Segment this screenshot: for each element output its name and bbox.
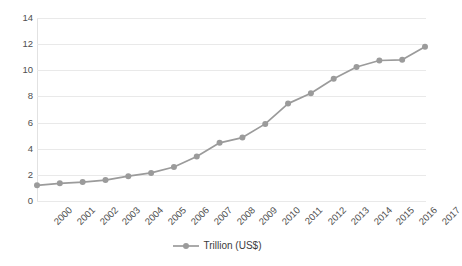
y-tick-label: 4 (3, 144, 33, 154)
x-tick-label: 2014 (372, 205, 394, 227)
x-tick-label: 2000 (52, 205, 74, 227)
y-tick-label: 2 (3, 170, 33, 180)
y-tick-label: 6 (3, 118, 33, 128)
data-point-marker (331, 76, 337, 82)
y-tick-label: 8 (3, 92, 33, 102)
plot-area (37, 18, 426, 201)
y-tick-label: 10 (3, 66, 33, 76)
x-tick-label: 2004 (143, 205, 165, 227)
data-point-marker (399, 57, 405, 63)
legend-item-label: Trillion (US$) (204, 241, 262, 251)
x-tick-label: 2009 (258, 205, 280, 227)
x-tick-label: 2010 (280, 205, 302, 227)
data-point-marker (194, 154, 200, 160)
data-point-marker (285, 101, 291, 107)
gridline-0 (37, 201, 426, 202)
data-point-marker (217, 140, 223, 146)
x-tick-label: 2017 (440, 205, 462, 227)
data-point-marker (57, 180, 63, 186)
x-tick-label: 2007 (212, 205, 234, 227)
y-tick-label: 14 (3, 13, 33, 23)
x-tick-label: 2001 (75, 205, 97, 227)
data-point-marker (239, 135, 245, 141)
series-layer (37, 18, 426, 201)
x-tick-label: 2002 (98, 205, 120, 227)
legend-line-marker-icon (173, 241, 199, 251)
x-tick-label: 2011 (303, 205, 324, 226)
data-point-marker (376, 57, 382, 63)
data-point-marker (354, 64, 360, 70)
x-tick-label: 2003 (121, 205, 143, 227)
x-tick-label: 2016 (417, 205, 439, 227)
data-point-marker (148, 170, 154, 176)
x-tick-label: 2013 (349, 205, 371, 227)
x-axis: 2000200120022003200420052006200720082009… (37, 203, 426, 239)
y-tick-label: 0 (3, 196, 33, 206)
data-point-marker (171, 164, 177, 170)
x-tick-label: 2008 (235, 205, 257, 227)
chart-legend: Trillion (US$) (0, 241, 434, 251)
data-point-marker (308, 90, 314, 96)
x-tick-label: 2015 (395, 205, 417, 227)
x-tick-label: 2006 (189, 205, 211, 227)
x-tick-label: 2012 (326, 205, 348, 227)
data-point-marker (102, 177, 108, 183)
data-point-marker (125, 173, 131, 179)
data-point-marker (422, 44, 428, 50)
data-point-marker (80, 179, 86, 185)
data-point-marker (34, 182, 40, 188)
series-line (37, 47, 425, 186)
y-axis: 14121086420 (0, 18, 33, 201)
x-tick-label: 2005 (166, 205, 188, 227)
y-tick-label: 12 (3, 39, 33, 49)
data-point-marker (262, 121, 268, 127)
